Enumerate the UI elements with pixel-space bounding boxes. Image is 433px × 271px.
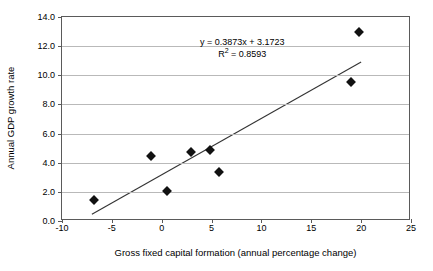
x-axis-tick-label: 5 xyxy=(209,224,214,233)
gridline-horizontal xyxy=(62,192,409,193)
x-axis-title: Gross fixed capital formation (annual pe… xyxy=(61,247,410,259)
y-axis-tick-label: 0.0 xyxy=(42,217,55,226)
x-axis-tick-label: 10 xyxy=(256,224,266,233)
equation-line: y = 0.3873x + 3.1723 xyxy=(200,36,285,48)
r-squared-line: R2 = 0.8593 xyxy=(200,48,285,60)
y-axis-tick xyxy=(58,192,62,193)
y-axis-tick-label: 14.0 xyxy=(37,13,55,22)
y-axis-tick-label: 2.0 xyxy=(42,187,55,196)
y-axis-tick-label: 6.0 xyxy=(42,129,55,138)
y-axis-tick xyxy=(58,163,62,164)
y-axis-tick xyxy=(58,104,62,105)
regression-equation-annotation: y = 0.3873x + 3.1723 R2 = 0.8593 xyxy=(200,36,285,60)
y-axis-tick-label: 8.0 xyxy=(42,100,55,109)
x-axis-tick-label: -5 xyxy=(108,224,116,233)
x-axis-tick-label: -10 xyxy=(55,224,68,233)
x-axis-tick-label: 20 xyxy=(356,224,366,233)
y-axis-tick xyxy=(58,17,62,18)
y-axis-title: Annual GDP growth rate xyxy=(4,16,18,220)
x-axis-tick-label: 25 xyxy=(406,224,416,233)
y-axis-tick-label: 4.0 xyxy=(42,158,55,167)
gridline-horizontal xyxy=(62,75,409,76)
y-axis-tick xyxy=(58,75,62,76)
r-squared-value: = 0.8593 xyxy=(229,49,267,59)
gridline-horizontal xyxy=(62,163,409,164)
y-axis-tick-label: 10.0 xyxy=(37,71,55,80)
x-axis-tick-label: 0 xyxy=(159,224,164,233)
y-axis-tick-label: 12.0 xyxy=(37,42,55,51)
y-axis-tick xyxy=(58,134,62,135)
y-axis-tick xyxy=(58,46,62,47)
scatter-chart: Annual GDP growth rate 0.02.04.06.08.010… xyxy=(0,0,433,271)
gridline-horizontal xyxy=(62,134,409,135)
gridline-horizontal xyxy=(62,104,409,105)
x-axis-tick-label: 15 xyxy=(306,224,316,233)
